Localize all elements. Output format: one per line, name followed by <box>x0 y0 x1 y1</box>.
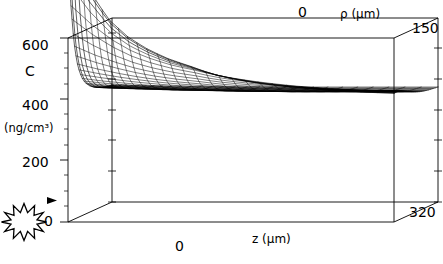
y-axis-unit: (ng/cm³) <box>4 123 54 135</box>
plot-canvas <box>0 0 443 264</box>
z-axis-label: z (µm) <box>252 233 291 245</box>
y-axis-symbol: C <box>25 64 35 78</box>
rho-axis-label: ρ (µm) <box>340 8 380 20</box>
y-tick-400: 400 <box>22 98 49 112</box>
y-tick-600: 600 <box>22 38 49 52</box>
vertical-axis-ticks <box>60 38 68 222</box>
rho-axis-max: 150 <box>412 21 439 35</box>
surface-mesh <box>68 0 438 93</box>
axis-box-frame <box>68 18 438 222</box>
box-bottom-face <box>68 202 438 222</box>
z-axis-origin: 0 <box>175 239 184 253</box>
starburst-icon <box>2 204 47 241</box>
background-level-arrow-icon <box>47 197 57 204</box>
y-tick-200: 200 <box>22 155 49 169</box>
rho-axis-origin: 0 <box>298 5 307 19</box>
z-axis-max: 320 <box>409 205 436 219</box>
y-tick-0: 0 <box>44 214 53 228</box>
figure-3d-surface-plot: 600 400 200 0 C (ng/cm³) z (µm) ρ (µm) 0… <box>0 0 443 264</box>
